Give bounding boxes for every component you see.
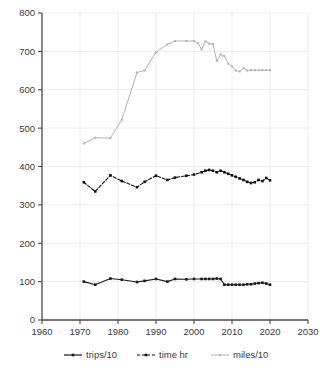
x-tick-label: 2000	[183, 326, 204, 337]
legend-marker-swatch	[219, 354, 221, 356]
data-point-marker	[208, 278, 211, 281]
series-time-hr	[83, 169, 272, 193]
y-tick-label: 700	[19, 46, 35, 57]
y-tick-label: 500	[19, 123, 35, 134]
data-point-marker	[219, 169, 222, 172]
data-point-marker	[223, 171, 226, 174]
data-point-marker	[155, 278, 158, 281]
data-point-marker	[109, 137, 111, 139]
data-point-marker	[265, 282, 268, 285]
data-point-marker	[223, 283, 226, 286]
data-point-marker	[223, 55, 225, 57]
data-point-marker	[193, 278, 196, 281]
x-tick-label: 1990	[145, 326, 166, 337]
data-point-marker	[261, 180, 264, 183]
data-point-marker	[94, 283, 97, 286]
data-point-marker	[121, 180, 124, 183]
y-tick-label: 100	[19, 276, 35, 287]
data-point-marker	[197, 42, 199, 44]
data-point-marker	[200, 171, 203, 174]
data-point-marker	[166, 179, 169, 182]
data-series-group	[83, 40, 272, 286]
chart-legend: trips/10time hrmiles/10	[64, 349, 268, 360]
chart-container: 0100200300400500600700800 19601970198019…	[0, 0, 324, 373]
data-point-marker	[83, 181, 86, 184]
data-point-marker	[250, 182, 253, 185]
y-tick-label: 200	[19, 238, 35, 249]
x-tick-label: 2010	[221, 326, 242, 337]
data-point-marker	[174, 40, 176, 42]
data-point-marker	[261, 281, 264, 284]
data-point-marker	[174, 278, 177, 281]
data-point-marker	[136, 186, 139, 189]
data-point-marker	[83, 280, 86, 283]
data-point-marker	[238, 177, 241, 180]
data-point-marker	[216, 60, 218, 62]
legend-item-trips-10[interactable]: trips/10	[64, 349, 117, 360]
data-point-marker	[242, 283, 245, 286]
data-point-marker	[242, 179, 245, 182]
data-point-marker	[204, 40, 206, 42]
y-tick-label: 600	[19, 84, 35, 95]
data-point-marker	[144, 70, 146, 72]
y-tick-label: 400	[19, 161, 35, 172]
data-point-marker	[94, 190, 97, 193]
data-point-marker	[216, 171, 219, 174]
legend-marker-swatch	[72, 354, 75, 357]
data-point-marker	[220, 53, 222, 55]
data-point-marker	[265, 69, 267, 71]
y-tick-label: 800	[19, 7, 35, 18]
data-point-marker	[258, 69, 260, 71]
data-point-marker	[94, 137, 96, 139]
x-axis	[42, 320, 308, 324]
legend-item-time-hr[interactable]: time hr	[137, 349, 188, 360]
legend-label: time hr	[159, 349, 188, 360]
data-point-marker	[185, 174, 188, 177]
data-point-marker	[219, 278, 222, 281]
x-tick-label: 2030	[297, 326, 318, 337]
data-point-marker	[121, 278, 124, 281]
data-point-marker	[109, 174, 112, 177]
gridlines	[42, 13, 308, 320]
data-point-marker	[201, 48, 203, 50]
data-point-marker	[212, 169, 215, 172]
data-point-marker	[238, 283, 241, 286]
data-point-marker	[254, 282, 257, 285]
series-miles-10	[83, 40, 271, 144]
data-point-marker	[242, 67, 244, 69]
data-point-marker	[231, 283, 234, 286]
data-point-marker	[227, 283, 230, 286]
data-point-marker	[231, 65, 233, 67]
data-point-marker	[204, 169, 207, 172]
data-point-marker	[155, 51, 157, 53]
legend-item-miles-10[interactable]: miles/10	[211, 349, 268, 360]
data-point-marker	[166, 280, 169, 283]
y-axis	[38, 13, 42, 320]
data-point-marker	[261, 69, 263, 71]
data-point-marker	[212, 43, 214, 45]
data-point-marker	[254, 181, 257, 184]
x-tick-label: 1960	[31, 326, 52, 337]
data-point-marker	[227, 63, 229, 65]
data-point-marker	[121, 119, 123, 121]
y-tick-labels: 0100200300400500600700800	[19, 7, 35, 325]
data-point-marker	[166, 43, 168, 45]
data-point-marker	[250, 283, 253, 286]
data-point-marker	[235, 70, 237, 72]
data-point-marker	[208, 169, 211, 172]
data-point-marker	[204, 278, 207, 281]
data-point-marker	[239, 70, 241, 72]
legend-marker-swatch	[145, 354, 148, 357]
legend-label: trips/10	[86, 349, 117, 360]
data-point-marker	[185, 40, 187, 42]
data-point-marker	[174, 176, 177, 179]
data-point-marker	[216, 277, 219, 280]
data-point-marker	[185, 278, 188, 281]
data-point-marker	[269, 283, 272, 286]
data-point-marker	[200, 278, 203, 281]
data-point-marker	[83, 142, 85, 144]
data-point-marker	[265, 177, 268, 180]
x-tick-labels: 19601970198019902000201020202030	[31, 326, 318, 337]
data-point-marker	[254, 69, 256, 71]
data-point-marker	[193, 40, 195, 42]
